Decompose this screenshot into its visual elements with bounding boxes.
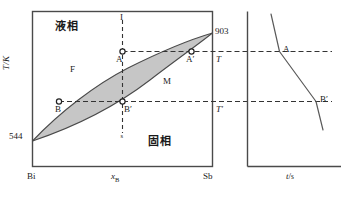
liquid-phase-label: 液相	[55, 21, 79, 32]
vertical-line-bottom-label: s	[121, 133, 124, 140]
cooling-break-point-upper-label: A	[283, 45, 290, 54]
tie-line-upper-temp-label: T	[216, 55, 221, 64]
point-label-B: B	[55, 105, 61, 114]
x-right-component-label: Sb	[203, 172, 213, 181]
figure-root: T/K 544 903 Bi Sb xB 液相 固相 F M I s A A′ …	[0, 0, 342, 199]
tie-line-lower-temp-label: T′	[216, 105, 223, 114]
y-high-value-label: 903	[215, 27, 229, 36]
point-label-A: A	[116, 55, 123, 64]
x-axis-label-sub: B	[115, 176, 119, 183]
point-label-A-prime: A′	[186, 55, 194, 64]
y-axis-label: T/K	[2, 56, 11, 70]
x-left-component-label: Bi	[27, 172, 36, 181]
cooling-break-point-lower-label: B′	[320, 95, 328, 104]
region-f-label: F	[70, 65, 75, 74]
region-m-label: M	[163, 77, 171, 86]
cooling-curve-x-axis-label: t/s	[286, 172, 294, 181]
y-low-value-label: 544	[9, 132, 23, 141]
x-axis-label: xB	[111, 172, 119, 183]
vertical-line-top-label: I	[120, 13, 123, 22]
cooling-x-axis-sub: s	[291, 172, 294, 181]
solid-phase-label: 固相	[148, 136, 172, 147]
point-label-B-prime: B′	[124, 105, 132, 114]
cooling-curve-line	[271, 14, 323, 130]
figure-canvas	[0, 0, 342, 199]
